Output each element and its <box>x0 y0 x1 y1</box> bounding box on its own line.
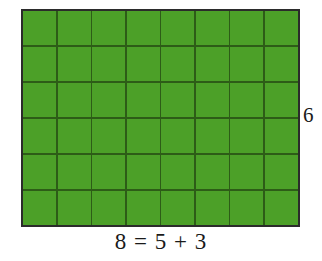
height-dimension-label: 6 <box>303 105 314 126</box>
unit-square <box>196 83 229 117</box>
unit-square <box>92 119 125 153</box>
unit-square <box>230 119 263 153</box>
unit-square <box>265 155 298 189</box>
unit-square <box>92 11 125 45</box>
unit-square <box>161 11 194 45</box>
unit-square <box>127 83 160 117</box>
unit-square <box>196 11 229 45</box>
unit-square <box>265 191 298 225</box>
unit-square <box>92 155 125 189</box>
unit-square <box>127 47 160 81</box>
unit-square <box>58 155 91 189</box>
unit-square <box>230 47 263 81</box>
unit-square <box>196 119 229 153</box>
unit-square <box>127 119 160 153</box>
unit-square <box>58 119 91 153</box>
unit-square <box>58 47 91 81</box>
area-model-figure: 6 8 = 5 + 3 <box>0 0 322 261</box>
unit-square <box>92 191 125 225</box>
unit-square <box>265 83 298 117</box>
unit-square <box>23 191 56 225</box>
unit-square <box>23 119 56 153</box>
unit-square <box>161 83 194 117</box>
unit-square <box>127 155 160 189</box>
unit-square <box>230 191 263 225</box>
unit-square <box>23 83 56 117</box>
unit-square <box>230 155 263 189</box>
grid-rectangle <box>21 9 300 227</box>
unit-square <box>161 191 194 225</box>
unit-square <box>127 191 160 225</box>
unit-square <box>196 155 229 189</box>
unit-square <box>58 11 91 45</box>
unit-square <box>127 11 160 45</box>
unit-square <box>23 47 56 81</box>
unit-square <box>92 83 125 117</box>
unit-square <box>58 83 91 117</box>
unit-square <box>92 47 125 81</box>
unit-square <box>23 11 56 45</box>
unit-square <box>23 155 56 189</box>
unit-square <box>161 47 194 81</box>
unit-square <box>58 191 91 225</box>
unit-square <box>161 119 194 153</box>
unit-square <box>265 119 298 153</box>
unit-square <box>161 155 194 189</box>
unit-square <box>265 47 298 81</box>
equation-label: 8 = 5 + 3 <box>0 230 322 253</box>
unit-square <box>196 191 229 225</box>
unit-square-grid <box>23 11 298 225</box>
unit-square <box>230 11 263 45</box>
unit-square <box>265 11 298 45</box>
unit-square <box>230 83 263 117</box>
unit-square <box>196 47 229 81</box>
